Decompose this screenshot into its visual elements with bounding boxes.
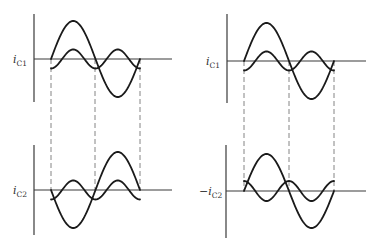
current-label: −iC2: [199, 185, 222, 200]
current-label: iC1: [13, 53, 27, 68]
current-label: iC2: [13, 184, 27, 199]
panel-bottom-right: [226, 145, 366, 238]
panel-top-left: [34, 14, 172, 102]
waveform-panels: [34, 14, 366, 238]
period-dashed-lines: [51, 59, 334, 191]
waveform-diagram: iC1iC2iC1−iC2: [0, 0, 381, 250]
panel-bottom-left: [34, 145, 172, 235]
current-label: iC1: [206, 55, 220, 70]
panel-top-right: [227, 14, 366, 103]
current-labels: iC1iC2iC1−iC2: [13, 53, 222, 200]
